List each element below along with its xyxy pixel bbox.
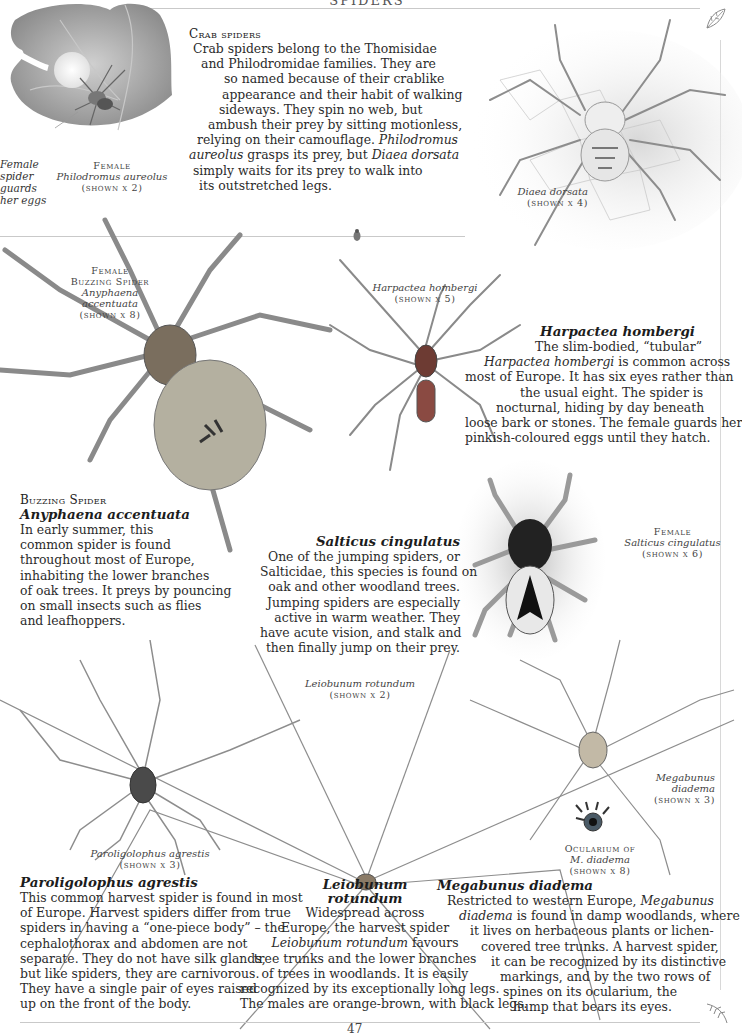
section-title: Salticus cingulatus xyxy=(260,533,460,549)
salticus-cingulatus-illustration xyxy=(455,460,605,660)
section-title: Anyphaena accentuata xyxy=(20,506,240,522)
harpactea-caption: Harpactea hombergi (shown x 5) xyxy=(365,282,485,304)
anyphaena-caption: Female Buzzing Spider Anyphaena accentua… xyxy=(55,265,165,320)
diaea-dorsata-illustration xyxy=(420,20,730,250)
section-title: Paroligolophus agrestis xyxy=(20,874,270,890)
top-rule xyxy=(140,8,700,9)
egg-guard-caption: Female spider guards her eggs xyxy=(0,158,46,206)
page-number: 47 xyxy=(347,1022,362,1036)
megabunus-caption: Megabunus diadema (shown x 3) xyxy=(625,772,715,805)
small-bug-icon xyxy=(352,228,362,242)
philodromus-caption: Female Philodromus aureolus (shown x 2) xyxy=(52,160,172,193)
salticus-section: Salticus cingulatus One of the jumping s… xyxy=(260,533,460,655)
salticus-caption: Female Salticus cingulatus (shown x 6) xyxy=(615,526,730,559)
anyphaena-section: Buzzing Spider Anyphaena accentuata In e… xyxy=(20,493,240,628)
megabunus-section: Megabunus diadema Restricted to western … xyxy=(437,877,722,1015)
leiobunum-caption: Leiobunum rotundum (shown x 2) xyxy=(300,678,420,700)
diaea-caption: Diaea dorsata (shown x 4) xyxy=(498,186,588,208)
harpactea-section: Harpactea hombergi The slim-bodied, “tub… xyxy=(440,323,730,445)
paroligolophus-section: Paroligolophus agrestis This common harv… xyxy=(20,874,270,1012)
paroligolophus-caption: Paroligolophus agrestis (shown x 3) xyxy=(90,848,210,870)
section-title: Megabunus diadema xyxy=(437,877,722,893)
leaf-with-egg-sac-illustration xyxy=(0,0,190,135)
section-title: Harpactea hombergi xyxy=(440,323,730,339)
ocularium-caption: Ocularium of M. diadema (shown x 8) xyxy=(550,843,650,876)
